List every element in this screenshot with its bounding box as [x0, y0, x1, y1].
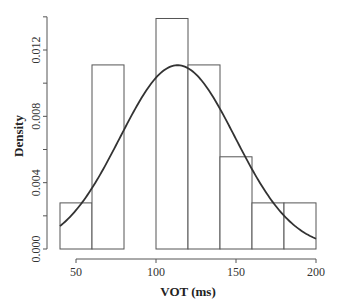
y-axis-title: Density: [11, 115, 26, 157]
histogram-bar: [156, 18, 188, 249]
x-tick-label: 100: [147, 265, 165, 279]
y-tick-label: 0.012: [29, 37, 43, 64]
x-tick-label: 200: [307, 265, 325, 279]
x-tick-label: 150: [227, 265, 245, 279]
histogram-chart: 0.0000.0040.0080.012 50100150200 Density…: [0, 0, 340, 304]
x-axis: 50100150200: [70, 259, 325, 279]
y-tick-label: 0.008: [29, 103, 43, 130]
histogram-bar: [92, 65, 124, 249]
histogram-bar: [220, 157, 252, 249]
y-tick-label: 0.000: [29, 236, 43, 263]
x-axis-title: VOT (ms): [160, 284, 215, 299]
x-tick-label: 50: [70, 265, 82, 279]
histogram-bar: [284, 203, 316, 249]
histogram-bar: [188, 65, 220, 249]
y-tick-label: 0.004: [29, 169, 43, 196]
y-axis: 0.0000.0040.0080.012: [29, 17, 47, 263]
histogram-bars: [60, 18, 316, 249]
